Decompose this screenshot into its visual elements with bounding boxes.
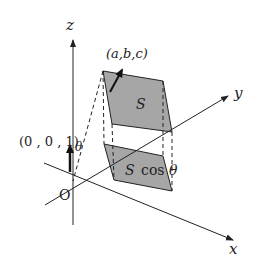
projection-diagram: z y x O (a,b,c) (0 , 0 , 1) θ S S cos θ bbox=[0, 0, 257, 266]
angle-theta-label: θ bbox=[75, 140, 83, 154]
projected-theta: θ bbox=[169, 162, 178, 178]
origin-label: O bbox=[59, 187, 70, 203]
projected-s: S bbox=[125, 162, 135, 178]
x-axis-label: x bbox=[229, 240, 238, 258]
surface-label: S bbox=[136, 96, 146, 112]
unit-vector-label: (0 , 0 , 1) bbox=[19, 134, 79, 149]
projected-surface-label: S cos θ bbox=[125, 162, 178, 178]
z-axis-label: z bbox=[65, 16, 74, 34]
normal-vector-label: (a,b,c) bbox=[106, 46, 148, 61]
y-axis-label: y bbox=[233, 84, 243, 102]
projected-cos: cos bbox=[141, 162, 164, 178]
